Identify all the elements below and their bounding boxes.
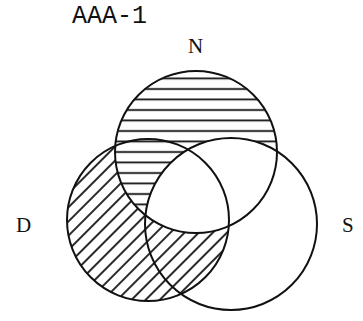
venn-diagram bbox=[0, 0, 363, 321]
shading-d-minus-n bbox=[0, 0, 363, 321]
